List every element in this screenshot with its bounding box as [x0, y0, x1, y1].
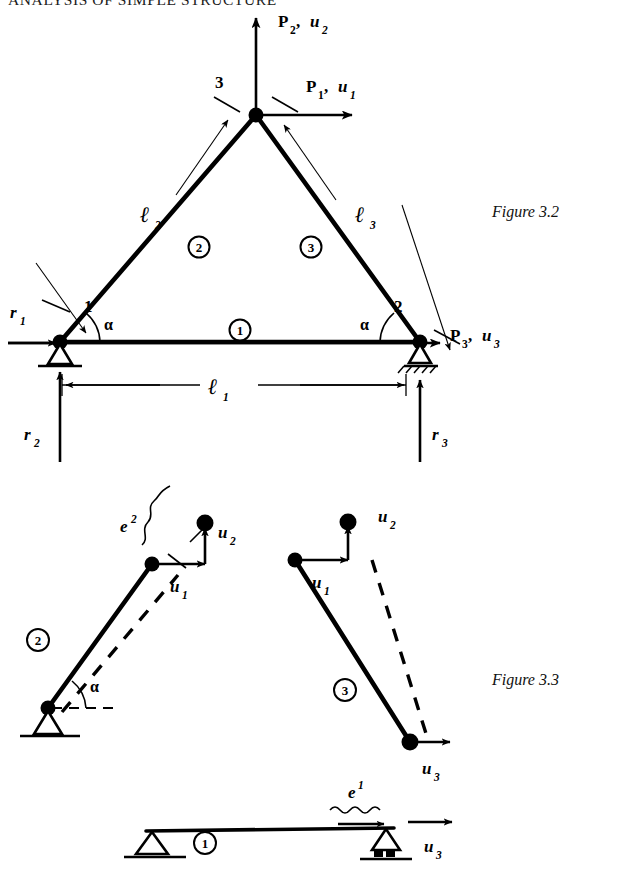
member-2-leader-tick — [214, 97, 240, 112]
dimension-l1-subscript: 1 — [223, 391, 229, 403]
reaction-r1-subscript: 1 — [20, 315, 26, 327]
member-2-strain-symbol: e — [120, 517, 128, 536]
support-roller-node-2 — [398, 344, 438, 373]
fig33-member-2-number: 2 — [35, 633, 42, 648]
member-3-u1-symbol: u — [312, 573, 321, 592]
load-P1-label: P 1 , u 1 — [306, 77, 356, 101]
length-l2-label: ℓ 2 — [140, 202, 161, 231]
truss-members — [60, 115, 420, 342]
reaction-r3-subscript: 3 — [441, 437, 448, 449]
member-1-line — [146, 828, 394, 831]
fig33-member-1-circled-label: 1 — [194, 832, 216, 854]
load-P2-sep: , — [296, 12, 300, 31]
member-3-number: 3 — [308, 240, 315, 255]
fig33-member-1-group: u 3 1 e 1 — [124, 779, 452, 861]
node-3-dot — [249, 108, 264, 123]
load-P1-usub: 1 — [350, 89, 356, 101]
angle-alpha-node-1-arc — [86, 313, 100, 342]
node-3-label: 3 — [215, 73, 224, 92]
length-l3-subscript: 3 — [369, 219, 376, 231]
node-2-label: 2 — [394, 297, 403, 316]
member-3-u3-label: u 3 — [422, 759, 440, 783]
member-1-circled-label: 1 — [230, 320, 251, 341]
member-2-u2-symbol: u — [218, 523, 227, 542]
member-3-u1-subscript: 1 — [324, 585, 330, 597]
load-P2-u: u — [310, 12, 319, 31]
member-3-u3-symbol: u — [422, 759, 431, 778]
dimension-l1-symbol: ℓ — [208, 374, 217, 399]
length-l2-subscript: 2 — [154, 219, 161, 231]
member-2-lower-tick — [42, 300, 70, 312]
load-P3-u: u — [482, 326, 491, 345]
member-2-u1-symbol: u — [170, 577, 179, 596]
member-3-circled-label: 3 — [301, 237, 322, 258]
length-l3-label: ℓ 3 — [355, 202, 376, 231]
member-2-circled-label: 2 — [189, 237, 210, 258]
fig33-member-3-circled-label: 3 — [334, 679, 356, 701]
member-1-strain-superscript: 1 — [358, 779, 364, 791]
member-1-number: 1 — [237, 323, 244, 338]
member-2-deformed-shape — [62, 575, 178, 712]
member-2-strain-superscript: 2 — [130, 513, 137, 525]
member-1-pin-support — [136, 832, 168, 854]
member-2-u2-label: u 2 — [218, 523, 236, 547]
member-1-roller-left — [374, 850, 383, 857]
reaction-r2-subscript: 2 — [33, 437, 40, 449]
member-1-u3-symbol: u — [424, 837, 433, 856]
member-3-u2-subscript: 2 — [389, 519, 396, 531]
page-canvas: ANALYSIS OF SIMPLE STRUCTURE — [0, 0, 634, 887]
reaction-r2-label: r 2 — [24, 425, 40, 449]
load-P1-u: u — [338, 77, 347, 96]
load-P3-sep: , — [468, 326, 472, 345]
length-l3-symbol: ℓ — [355, 202, 364, 227]
member-2-strain-label: e 2 — [120, 513, 137, 536]
member-2-strain-squiggle — [142, 486, 170, 545]
load-P2-usub: 2 — [321, 24, 328, 36]
reaction-r3-label: r 3 — [432, 425, 448, 449]
load-P1-P: P — [306, 77, 316, 96]
reaction-r1-label: r 1 — [10, 303, 26, 327]
angle-alpha-node-1-label: α — [104, 316, 113, 333]
member-1-roller-support — [372, 829, 400, 850]
dimension-l1: ℓ 1 — [62, 368, 406, 403]
member-2-u2-subscript: 2 — [229, 535, 236, 547]
fig33-member-2-group: α u 1 u 2 e 2 — [20, 486, 236, 736]
member-3-u3-subscript: 3 — [433, 771, 440, 783]
member-1-strain-squiggle — [330, 807, 380, 813]
member-2-lower-leader — [36, 263, 86, 333]
fig33-member-2-circled-label: 2 — [27, 629, 49, 651]
member-1-u3-label: u 3 — [424, 837, 442, 861]
fig33-member-3-number: 3 — [342, 683, 349, 698]
member-2-number: 2 — [196, 240, 203, 255]
fig33-member-3-group: u 1 u 2 u 3 3 — [288, 507, 451, 783]
load-P3-label: P 3 , u 3 — [450, 326, 500, 350]
load-P1-sep: , — [324, 77, 328, 96]
member-1-strain-symbol: e — [348, 783, 356, 802]
load-P3-P: P — [450, 326, 460, 345]
member-3-leader-tick — [272, 97, 298, 112]
fig33-member-1-number: 1 — [202, 836, 209, 851]
length-l2-symbol: ℓ — [140, 202, 149, 227]
angle-alpha-node-2-arc — [380, 313, 394, 342]
member-2-line — [48, 564, 152, 708]
node-1-label: 1 — [84, 297, 93, 316]
member-1-strain-label: e 1 — [348, 779, 364, 802]
member-2-u1-tick — [168, 554, 186, 568]
support-pin-node-1 — [38, 344, 82, 366]
figure-3-2-diagram: 1 2 3 ℓ 2 ℓ 3 3 1 2 α α P 2 , — [0, 0, 634, 470]
member-3-u2-label: u 2 — [378, 507, 396, 531]
figure-3-2-caption: Figure 3.2 — [492, 203, 559, 221]
reaction-r2-symbol: r — [24, 425, 31, 444]
load-P2-P: P — [278, 12, 288, 31]
member-3-deformed-shape — [372, 560, 428, 740]
member-3-u2-symbol: u — [378, 507, 387, 526]
angle-alpha-node-2-label: α — [360, 316, 369, 333]
reaction-r1-symbol: r — [10, 303, 17, 322]
member-2-u1-subscript: 1 — [182, 589, 188, 601]
member-2-pin-support — [34, 711, 62, 734]
member-1-roller-right — [386, 850, 395, 857]
load-P3-usub: 3 — [493, 338, 500, 350]
load-P2-label: P 2 , u 2 — [278, 12, 328, 36]
member-2-u2-tick — [190, 528, 204, 542]
member-2-u1-label: u 1 — [170, 577, 188, 601]
